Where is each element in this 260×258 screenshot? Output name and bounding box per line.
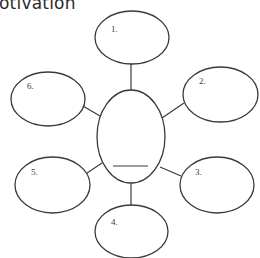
node-number-label: 2. — [199, 76, 206, 86]
node-1[interactable]: 1. — [95, 11, 169, 64]
connector-to-node-6 — [83, 106, 100, 116]
outer-nodes: 1.2.3.4.5.6. — [11, 11, 258, 258]
node-ellipse[interactable] — [11, 72, 85, 126]
node-ellipse[interactable] — [95, 11, 169, 64]
node-5[interactable]: 5. — [15, 157, 90, 213]
connector-to-node-3 — [160, 167, 181, 176]
node-6[interactable]: 6. — [11, 72, 85, 126]
center-node[interactable] — [97, 90, 165, 183]
node-number-label: 6. — [27, 81, 34, 91]
node-ellipse[interactable] — [95, 205, 168, 258]
node-3[interactable]: 3. — [180, 157, 254, 213]
node-ellipse[interactable] — [183, 67, 258, 122]
node-number-label: 3. — [195, 167, 202, 177]
connector-to-node-2 — [162, 103, 184, 118]
spider-diagram: 1.2.3.4.5.6. — [0, 0, 260, 258]
node-2[interactable]: 2. — [183, 67, 258, 122]
node-number-label: 1. — [111, 24, 118, 34]
node-4[interactable]: 4. — [95, 205, 168, 258]
connector-to-node-5 — [87, 163, 102, 173]
connector-lines — [83, 64, 184, 205]
node-ellipse[interactable] — [180, 157, 254, 213]
node-number-label: 4. — [111, 217, 118, 227]
node-number-label: 5. — [31, 167, 38, 177]
node-ellipse[interactable] — [15, 157, 90, 213]
